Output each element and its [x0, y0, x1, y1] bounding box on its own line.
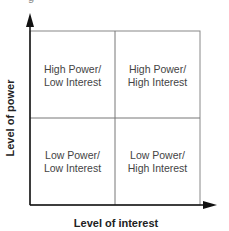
matrix-graphic [0, 0, 229, 231]
quadrant-line2: High Interest [115, 162, 200, 175]
quadrant-line1: Low Power/ [30, 149, 115, 162]
y-axis-label: Level of power [4, 76, 16, 160]
quadrant-high-power-low-interest: High Power/ Low Interest [30, 63, 115, 89]
quadrant-line2: Low Interest [30, 162, 115, 175]
quadrant-line2: High Interest [115, 76, 200, 89]
quadrant-low-power-high-interest: Low Power/ High Interest [115, 149, 200, 175]
quadrant-high-power-high-interest: High Power/ High Interest [115, 63, 200, 89]
x-axis-arrow-icon [203, 201, 217, 209]
quadrant-line2: Low Interest [30, 76, 115, 89]
x-axis-label: Level of interest [30, 217, 202, 229]
quadrant-low-power-low-interest: Low Power/ Low Interest [30, 149, 115, 175]
quadrant-line1: High Power/ [115, 63, 200, 76]
quadrant-line1: High Power/ [30, 63, 115, 76]
y-axis-arrow-icon [26, 13, 34, 27]
quadrant-line1: Low Power/ [115, 149, 200, 162]
